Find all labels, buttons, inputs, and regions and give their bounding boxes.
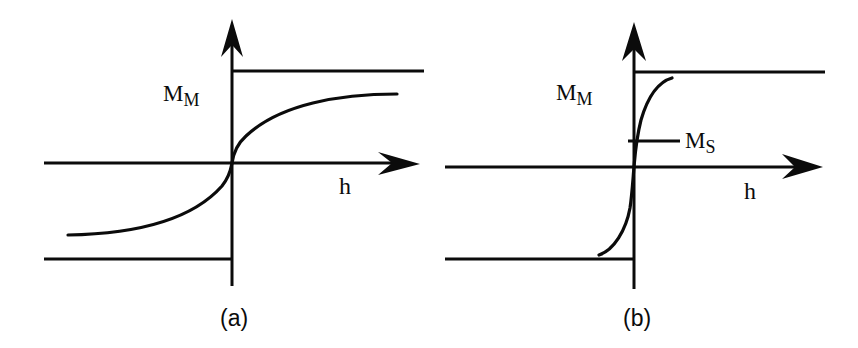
- panel-a: MM h (a): [44, 19, 424, 331]
- panel-b-caption: (b): [623, 305, 651, 331]
- panel-b-h-axis-label: h: [744, 178, 756, 204]
- panel-a-mm-label: MM: [163, 81, 199, 110]
- panel-b-ms-label: MS: [685, 128, 715, 157]
- panel-b: MM MS h (b): [445, 22, 825, 331]
- magnetization-diagram: MM h (a) MM MS h (b): [0, 0, 858, 348]
- panel-a-h-axis-label: h: [339, 173, 351, 199]
- panel-a-caption: (a): [220, 305, 248, 331]
- panel-b-mm-label: MM: [556, 80, 592, 109]
